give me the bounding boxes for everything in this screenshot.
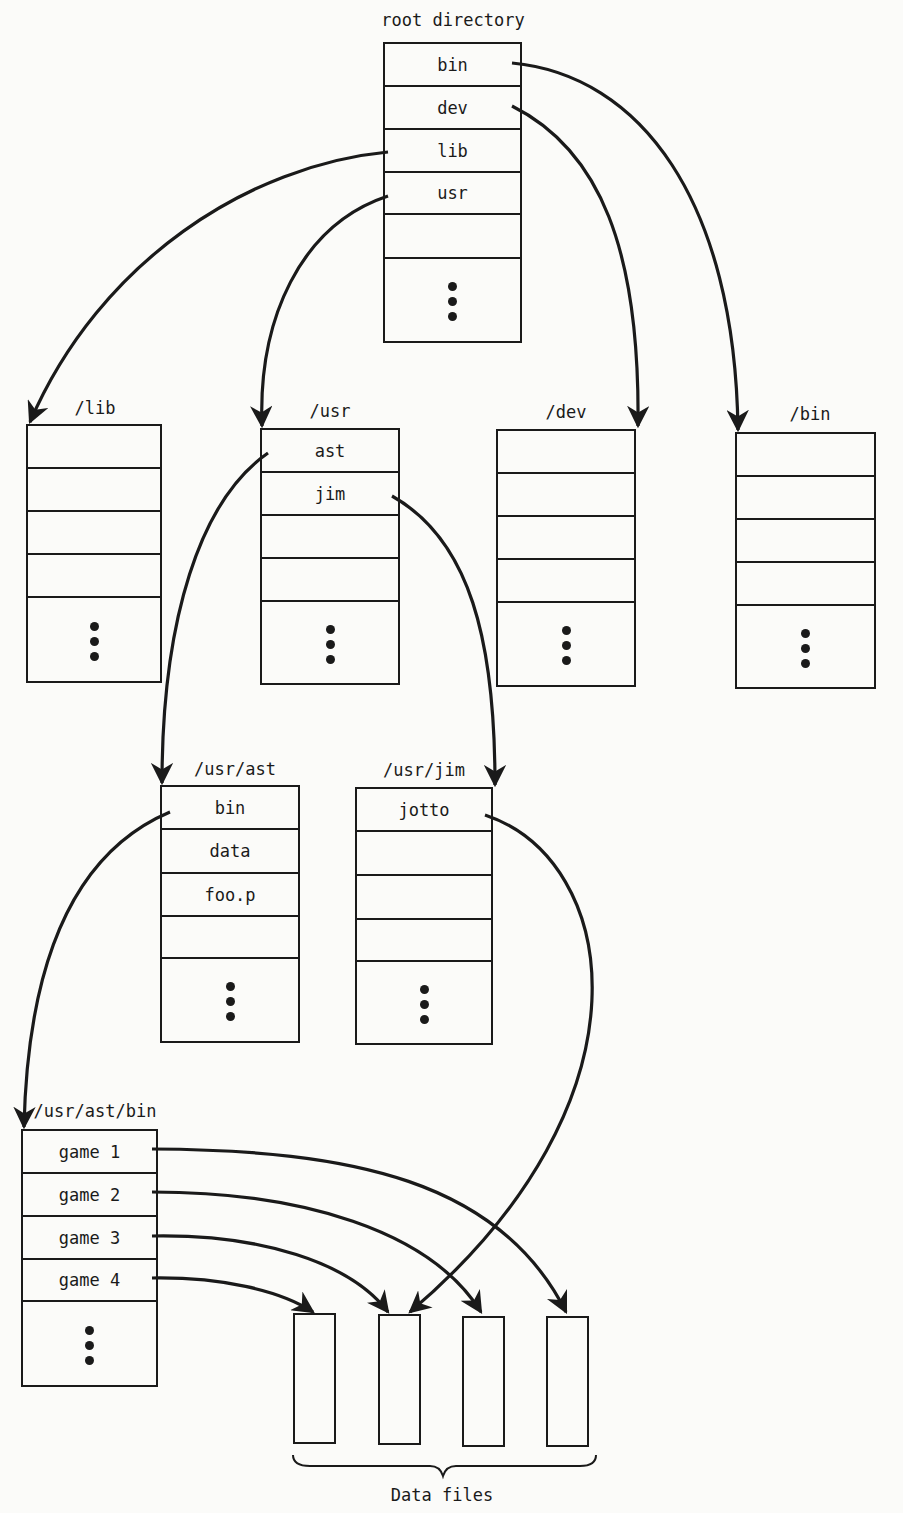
directory-entry [357,876,491,920]
directory-entry: usr [385,173,520,215]
ellipsis-dot [801,644,810,653]
data-file-4 [546,1316,589,1447]
ellipsis-dot [85,1356,94,1365]
arrow-game3-file2 [152,1236,388,1312]
ellipsis-dot [90,652,99,661]
directory-entry [357,920,491,962]
arrow-root-bin [512,63,738,430]
ellipsis-icon [357,985,491,1024]
ellipsis-dot [326,655,335,664]
ellipsis-dot [448,282,457,291]
data-file-3 [462,1316,505,1447]
directory-entry [498,517,634,560]
ellipsis-dot [420,985,429,994]
directory-entry [737,520,874,563]
directory-entry: jim [262,473,398,516]
arrow-game4-file1 [152,1278,313,1312]
arrow-usr-jim [392,496,495,785]
directory-entry [28,469,160,512]
directory-entry [498,560,634,603]
ellipsis-dot [85,1326,94,1335]
directory-root: bindevlibusr [383,42,522,343]
directory-usr-ast: bindatafoo.p [160,785,300,1043]
arrow-root-lib [30,152,388,422]
ellipsis-icon [23,1326,156,1365]
arrow-root-dev [512,106,638,426]
ellipsis-dot [801,629,810,638]
directory-lib [26,424,162,683]
directory-title-bin: /bin [790,404,831,424]
directory-entry: foo.p [162,874,298,917]
ellipsis-dot [420,1000,429,1009]
arrow-ast-bin [24,812,170,1127]
directory-entry [498,474,634,517]
ellipsis-dot [326,640,335,649]
directory-entry [498,431,634,474]
directory-usr-ast-bin: game 1game 2game 3game 4 [21,1129,158,1387]
directory-title-usr-ast: /usr/ast [194,759,276,779]
directory-entry [162,917,298,959]
directory-entry [737,477,874,520]
directory-entry: game 3 [23,1217,156,1260]
directory-entry: game 1 [23,1131,156,1174]
directory-entry [385,215,520,259]
directory-entry [737,434,874,477]
ellipsis-icon [737,629,874,668]
directory-entry: game 4 [23,1260,156,1302]
directory-dev [496,429,636,687]
ellipsis-dot [226,982,235,991]
directory-entry: jotto [357,789,491,832]
ellipsis-dot [448,297,457,306]
data-file-1 [293,1313,336,1444]
directory-entry [737,563,874,606]
directory-title-root: root directory [381,10,524,30]
data-file-2 [378,1314,421,1445]
data-files-brace [293,1455,596,1476]
directory-entry: dev [385,87,520,130]
directory-entry [28,555,160,598]
ellipsis-dot [562,626,571,635]
directory-entry: bin [385,44,520,87]
ellipsis-dot [226,997,235,1006]
ellipsis-icon [498,626,634,665]
directory-title-usr: /usr [310,401,351,421]
directory-entry [262,516,398,559]
directory-bin [735,432,876,689]
ellipsis-icon [385,282,520,321]
directory-entry [357,832,491,876]
arrow-root-usr [262,196,388,426]
directory-title-lib: /lib [75,398,116,418]
ellipsis-dot [562,641,571,650]
directory-entry: ast [262,430,398,473]
ellipsis-dot [90,637,99,646]
directory-entry [262,559,398,602]
directory-title-usr-jim: /usr/jim [383,760,465,780]
ellipsis-dot [801,659,810,668]
ellipsis-dot [326,625,335,634]
directory-title-dev: /dev [546,402,587,422]
ellipsis-icon [28,622,160,661]
ellipsis-dot [448,312,457,321]
directory-entry: game 2 [23,1174,156,1217]
directory-entry: data [162,830,298,874]
arrow-game1-file4 [152,1149,566,1312]
ellipsis-dot [226,1012,235,1021]
directory-title-usr-ast-bin: /usr/ast/bin [34,1101,157,1121]
directory-entry: bin [162,787,298,830]
directory-usr-jim: jotto [355,787,493,1045]
directory-entry [28,512,160,555]
ellipsis-dot [562,656,571,665]
directory-usr: astjim [260,428,400,685]
ellipsis-icon [262,625,398,664]
arrow-usr-ast [162,453,268,783]
ellipsis-dot [85,1341,94,1350]
directory-entry [28,426,160,469]
directory-entry: lib [385,130,520,173]
data-files-label: Data files [391,1485,493,1505]
ellipsis-dot [90,622,99,631]
ellipsis-dot [420,1015,429,1024]
ellipsis-icon [162,982,298,1021]
